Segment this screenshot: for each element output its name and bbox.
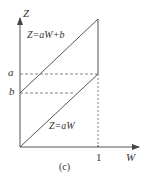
figure-caption: (c) xyxy=(59,162,70,172)
x-tick-label: 1 xyxy=(96,152,102,163)
x-axis-label: W xyxy=(126,152,135,163)
b-level-label: b xyxy=(9,86,15,97)
diagram-canvas: Z W 1 a b Z=aW+b Z=aW (c) xyxy=(0,0,151,183)
y-axis-label: Z xyxy=(23,8,29,19)
a-level-label: a xyxy=(8,67,14,78)
upper-line-label: Z=aW+b xyxy=(27,30,64,40)
lower-line xyxy=(20,74,98,147)
lower-line-label: Z=aW xyxy=(49,121,75,131)
